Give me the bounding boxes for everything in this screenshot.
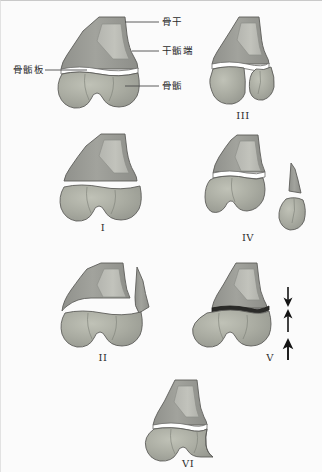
type3-epiphysis-lateral bbox=[249, 67, 274, 100]
type4-epiphyseal-fragment bbox=[279, 198, 305, 230]
type1-epiphysis bbox=[60, 185, 141, 221]
label-diaphysis: 骨干 bbox=[162, 17, 183, 27]
panel-type-5 bbox=[193, 263, 288, 360]
type3-epiphysis-medial bbox=[210, 67, 246, 104]
type6-epiphysis bbox=[145, 428, 213, 461]
panel-numeral-type-6: VI bbox=[178, 459, 198, 469]
panel-numeral-type-1: I bbox=[93, 223, 113, 233]
salter-harris-illustration bbox=[1, 1, 322, 472]
type4-epiphysis-main bbox=[205, 176, 265, 212]
panel-numeral-type-5: V bbox=[260, 353, 280, 363]
type5-epiphysis bbox=[193, 310, 271, 347]
panel-type-4 bbox=[205, 135, 305, 230]
label-epiphysis: 骨骺 bbox=[162, 81, 183, 91]
type2-metaphyseal-fragment bbox=[135, 267, 149, 313]
reference-epiphysis bbox=[58, 72, 139, 108]
panel-numeral-type-3: III bbox=[233, 111, 253, 121]
panel-type-3 bbox=[210, 17, 274, 104]
type4-metaphyseal-fragment bbox=[289, 163, 301, 193]
label-physis: 骨骺板 bbox=[13, 65, 44, 75]
type2-epiphysis bbox=[61, 311, 142, 347]
panel-reference bbox=[45, 17, 159, 108]
panel-numeral-type-4: IV bbox=[238, 233, 258, 243]
panel-type-6 bbox=[145, 380, 213, 461]
panel-numeral-type-2: II bbox=[93, 353, 113, 363]
panel-type-2 bbox=[61, 263, 149, 347]
panel-type-1 bbox=[60, 134, 141, 221]
figure-page: 骨干 干骺端 骨骺板 骨骺 I II III IV V VI bbox=[0, 0, 322, 472]
label-metaphysis: 干骺端 bbox=[162, 46, 193, 56]
